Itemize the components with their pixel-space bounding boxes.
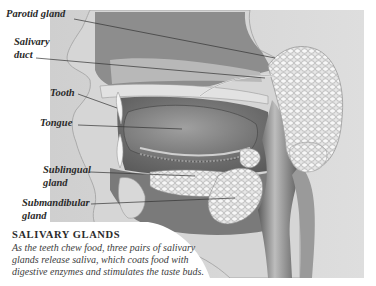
label-salivary-duct-line1: Salivary [14, 36, 50, 48]
label-submandibular-gland-line2: gland [22, 210, 47, 222]
figure-caption: SALIVARY GLANDS As the teeth chew food, … [12, 229, 242, 278]
label-tooth: Tooth [50, 87, 75, 99]
caption-title: SALIVARY GLANDS [12, 229, 242, 241]
caption-line: digestive enzymes and stimulates the tas… [12, 266, 242, 278]
label-salivary-duct-line2: duct [14, 49, 33, 61]
label-tongue: Tongue [40, 117, 72, 129]
caption-line: glands release saliva, which coats food … [12, 254, 242, 266]
caption-line: As the teeth chew food, three pairs of s… [12, 242, 242, 254]
label-sublingual-gland-line2: gland [43, 177, 68, 189]
label-parotid-gland: Parotid gland [6, 8, 65, 20]
salivary-glands-figure: Parotid gland Salivary duct Tooth Tongue… [0, 0, 376, 286]
label-sublingual-gland-line1: Sublingual [43, 164, 91, 176]
caption-body: As the teeth chew food, three pairs of s… [12, 242, 242, 278]
label-submandibular-gland-line1: Submandibular [22, 197, 90, 209]
